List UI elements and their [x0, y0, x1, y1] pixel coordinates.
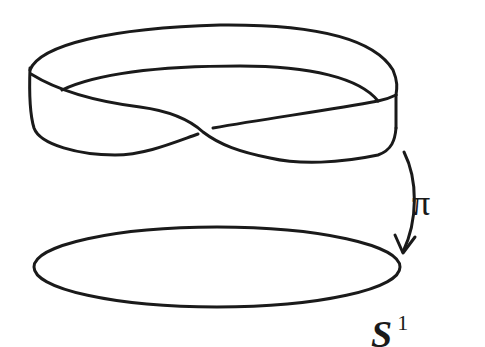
base-superscript: 1 — [397, 310, 408, 335]
projection-label: π — [412, 182, 430, 224]
mobius-upper-edge — [213, 95, 396, 128]
mobius-twist-edge — [31, 74, 396, 162]
circle-s1 — [34, 227, 400, 307]
mobius-outer-rim — [30, 25, 397, 95]
mobius-left-wall — [30, 68, 198, 155]
mobius-inner-rim — [62, 66, 378, 101]
base-symbol: S — [371, 313, 392, 347]
base-space-label: S1 — [371, 312, 408, 347]
diagram-canvas — [0, 0, 485, 347]
mobius-strip — [30, 25, 397, 162]
